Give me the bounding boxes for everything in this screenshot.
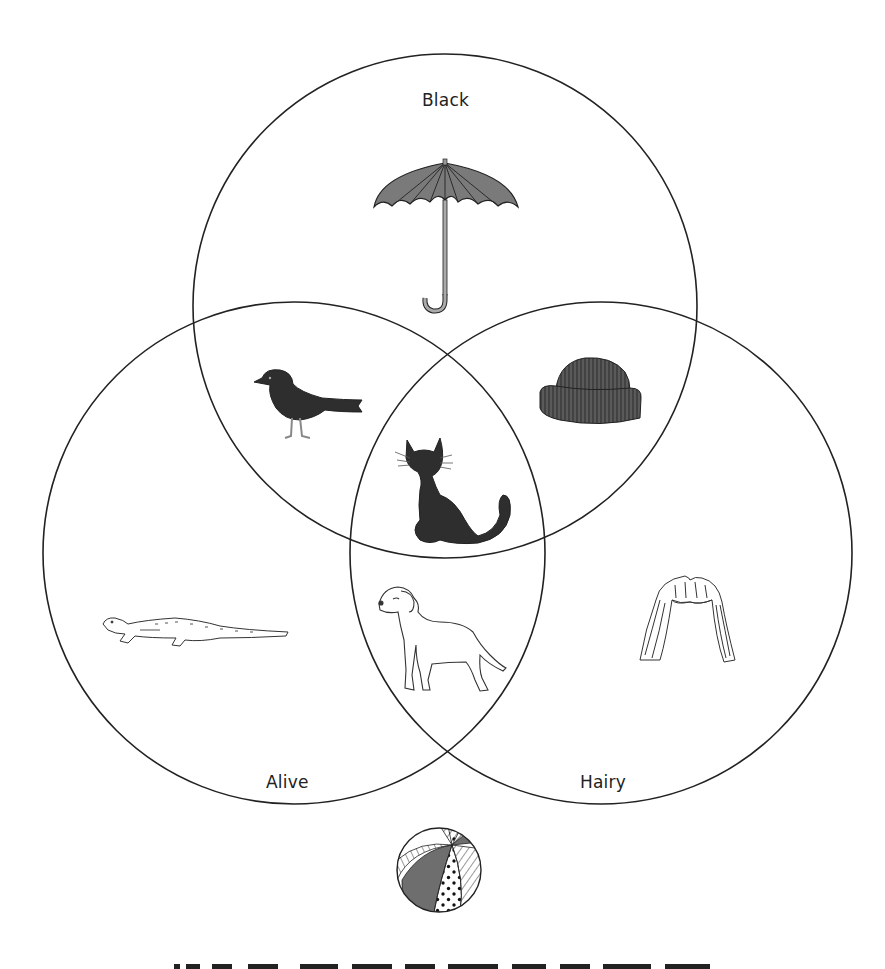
- clipped-caption-text: [0, 958, 885, 969]
- lizard-icon: [103, 618, 288, 646]
- set-circle-alive: [43, 302, 545, 804]
- dog-icon: [379, 587, 506, 691]
- bird-icon: [254, 370, 362, 438]
- beach-ball-icon: [397, 826, 490, 912]
- cat-icon: [395, 438, 510, 544]
- wig-icon: [640, 576, 735, 662]
- hat-icon: [540, 358, 641, 424]
- set-label-black: Black: [422, 90, 469, 110]
- venn-diagram: [0, 0, 885, 969]
- set-label-hairy: Hairy: [580, 772, 626, 792]
- umbrella-icon: [374, 159, 518, 311]
- set-label-alive: Alive: [266, 772, 309, 792]
